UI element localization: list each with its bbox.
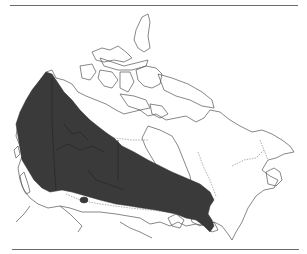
distribution-range [16, 72, 214, 232]
bottom-rule [12, 249, 299, 250]
canada-map [0, 0, 307, 254]
isolated-patch [80, 197, 88, 203]
arctic-islands [80, 14, 214, 118]
distribution-map [0, 0, 307, 254]
newfoundland-outline [266, 168, 282, 186]
